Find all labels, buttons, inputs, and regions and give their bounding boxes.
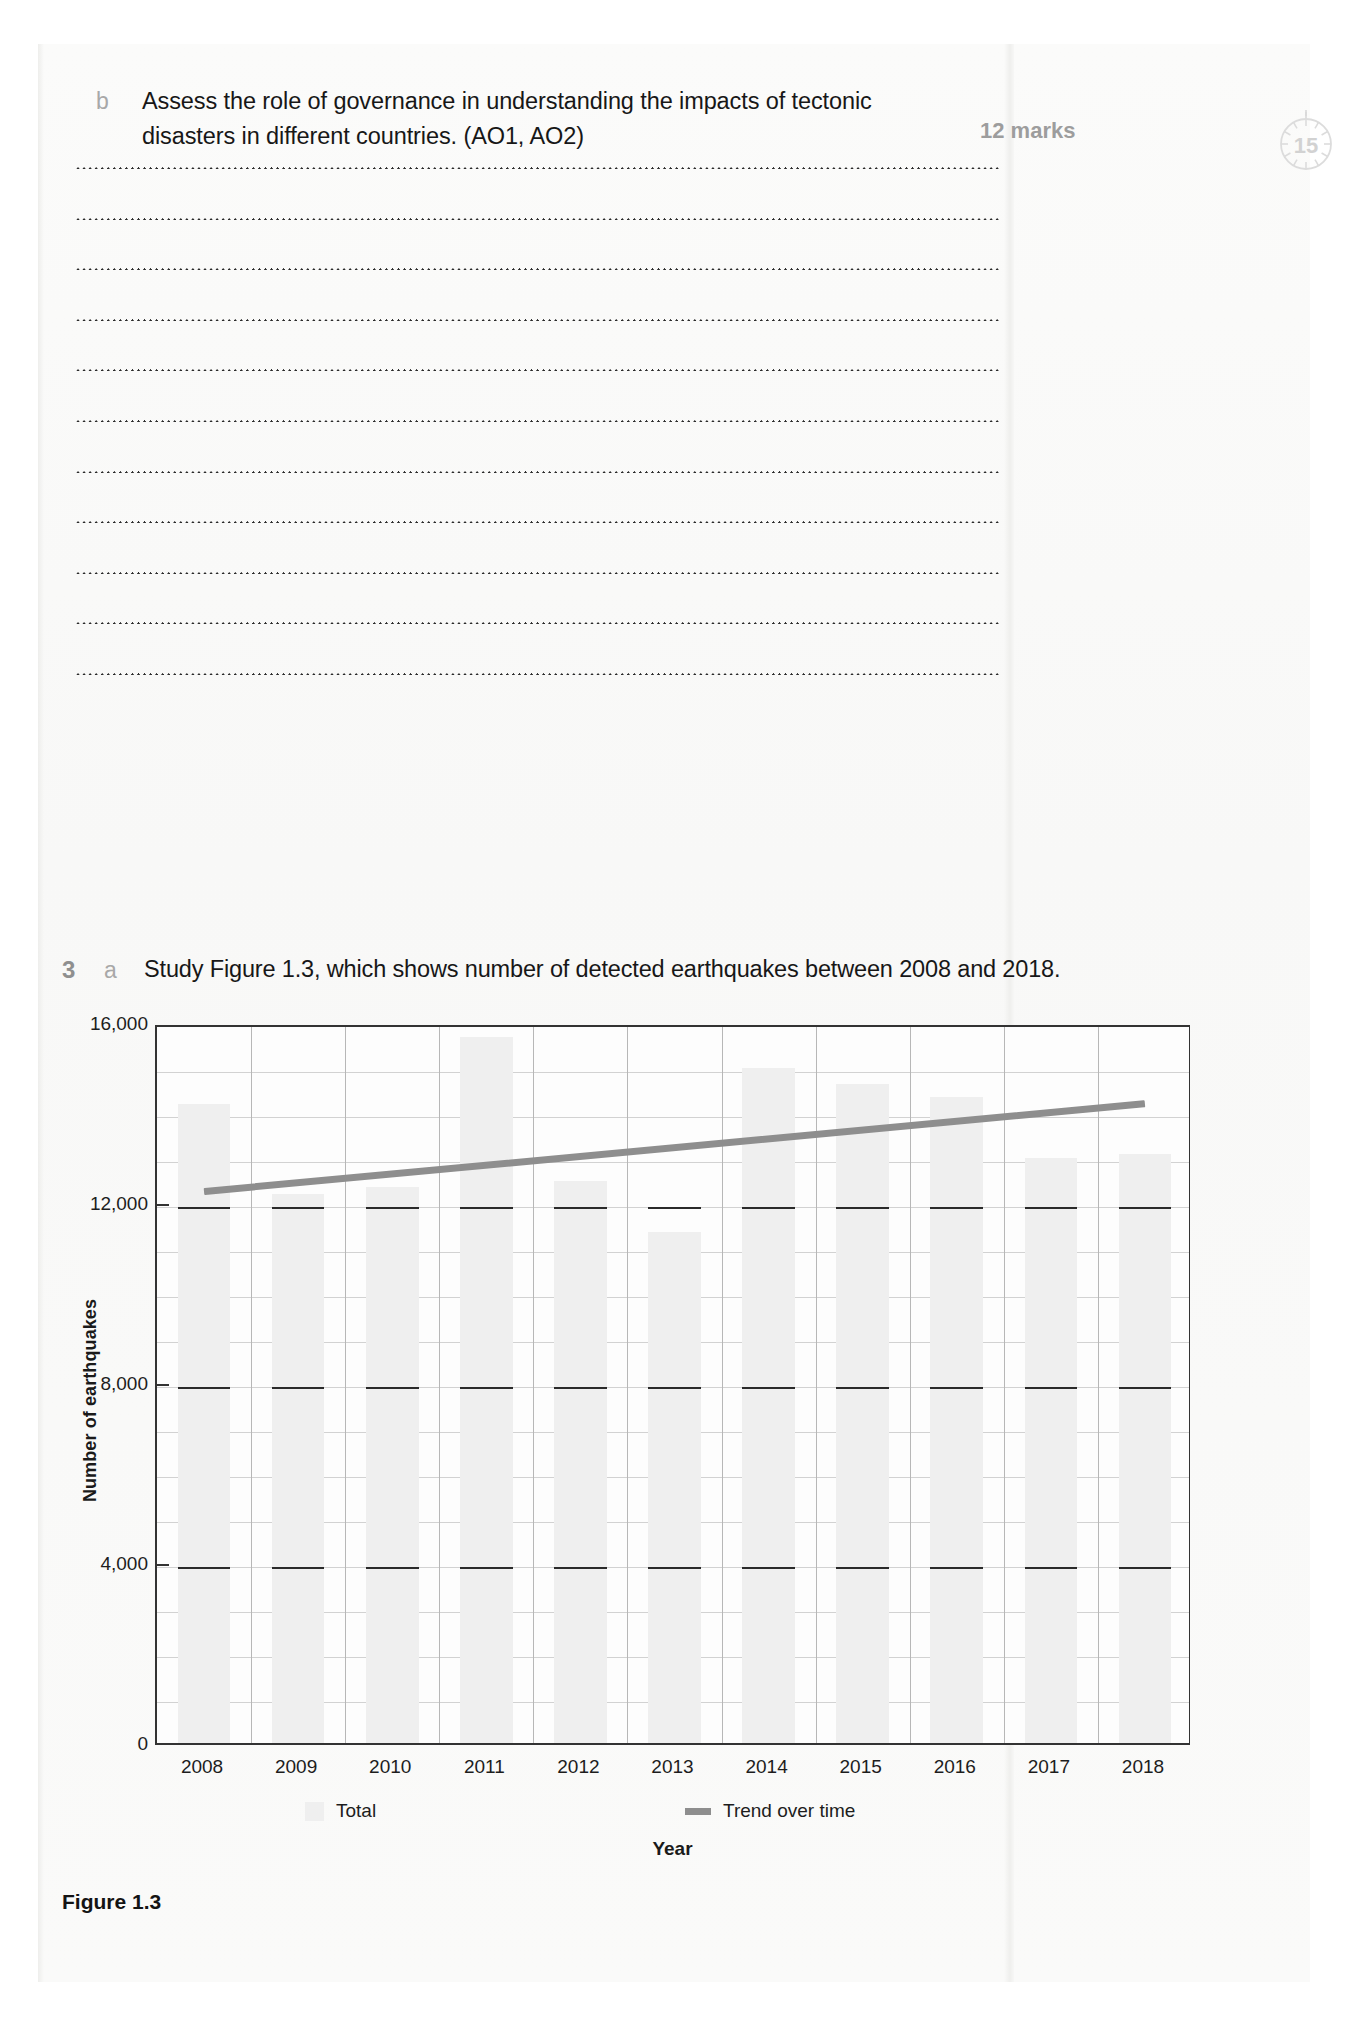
answer-line[interactable]	[75, 318, 1000, 321]
chart-gridline-vertical	[910, 1027, 911, 1743]
chart-legend-label: Total	[336, 1800, 376, 1822]
chart-tick-mark	[648, 1387, 701, 1389]
chart-bar	[366, 1187, 419, 1743]
chart-tick-mark	[366, 1387, 419, 1389]
question-b-text: Assess the role of governance in underst…	[142, 84, 932, 154]
chart-gridline-vertical	[1004, 1027, 1005, 1743]
chart-bar	[460, 1037, 513, 1744]
chart-y-tick-label: 0	[62, 1733, 148, 1755]
chart-bar	[930, 1097, 983, 1743]
answer-lines[interactable]	[75, 166, 1000, 723]
chart-legend-item: Total	[305, 1800, 376, 1822]
chart-tick-mark	[742, 1207, 795, 1209]
chart-tick-mark	[554, 1387, 607, 1389]
chart-y-axis-title: Number of earthquakes	[80, 1221, 101, 1581]
answer-line[interactable]	[75, 520, 1000, 523]
chart-bar	[648, 1232, 701, 1743]
chart-x-tick-label: 2016	[910, 1756, 1000, 1778]
chart-tick-mark	[1119, 1207, 1172, 1209]
answer-line[interactable]	[75, 217, 1000, 220]
chart-tick-mark	[178, 1387, 231, 1389]
chart-tick-mark	[272, 1207, 325, 1209]
chart-y-tick-label: 12,000	[62, 1193, 148, 1215]
figure-1-3-chart: Number of earthquakes 04,0008,00012,0001…	[62, 1000, 1242, 1880]
answer-line[interactable]	[75, 267, 1000, 270]
chart-tick-mark	[554, 1207, 607, 1209]
chart-bar	[178, 1104, 231, 1743]
chart-gridline-vertical	[251, 1027, 252, 1743]
chart-tick-mark	[930, 1567, 983, 1569]
chart-bar	[742, 1068, 795, 1743]
chart-x-tick-label: 2015	[816, 1756, 906, 1778]
chart-y-tick-label: 8,000	[62, 1373, 148, 1395]
chart-x-axis-title: Year	[155, 1838, 1190, 1860]
question-3-text: Study Figure 1.3, which shows number of …	[144, 956, 1060, 983]
chart-tick-mark	[648, 1567, 701, 1569]
paper-edge-left	[38, 44, 44, 1982]
legend-line-swatch-icon	[685, 1808, 711, 1815]
chart-tick-mark	[272, 1567, 325, 1569]
chart-tick-mark	[1025, 1567, 1078, 1569]
question-b-letter: b	[96, 84, 126, 118]
chart-y-tick-label: 4,000	[62, 1553, 148, 1575]
chart-bar	[1025, 1158, 1078, 1743]
exam-page: b Assess the role of governance in under…	[0, 0, 1355, 2027]
chart-x-tick-label: 2014	[722, 1756, 812, 1778]
chart-tick-mark	[366, 1207, 419, 1209]
chart-bar	[554, 1181, 607, 1744]
chart-gridline-vertical	[1098, 1027, 1099, 1743]
chart-plot-area	[155, 1025, 1190, 1745]
answer-line[interactable]	[75, 470, 1000, 473]
chart-gridline-horizontal	[157, 1072, 1189, 1073]
chart-x-tick-label: 2012	[533, 1756, 623, 1778]
chart-tick-mark	[178, 1207, 231, 1209]
chart-tick-mark	[460, 1207, 513, 1209]
chart-y-tick-dash	[155, 1384, 169, 1386]
answer-line[interactable]	[75, 571, 1000, 574]
chart-tick-mark	[366, 1567, 419, 1569]
chart-x-tick-label: 2018	[1098, 1756, 1188, 1778]
chart-bar	[1119, 1154, 1172, 1744]
chart-tick-mark	[742, 1387, 795, 1389]
chart-tick-mark	[930, 1207, 983, 1209]
chart-tick-mark	[1119, 1387, 1172, 1389]
chart-tick-mark	[178, 1567, 231, 1569]
chart-tick-mark	[460, 1387, 513, 1389]
question-3-number: 3	[62, 956, 75, 984]
answer-line[interactable]	[75, 419, 1000, 422]
figure-caption: Figure 1.3	[62, 1890, 161, 1914]
answer-line[interactable]	[75, 368, 1000, 371]
chart-y-tick-dash	[155, 1204, 169, 1206]
answer-line[interactable]	[75, 166, 1000, 169]
legend-bar-swatch-icon	[305, 1802, 324, 1821]
chart-gridline-vertical	[533, 1027, 534, 1743]
chart-y-tick-dash	[155, 1564, 169, 1566]
chart-gridline-vertical	[627, 1027, 628, 1743]
chart-tick-mark	[742, 1567, 795, 1569]
chart-legend-item: Trend over time	[685, 1800, 855, 1822]
chart-tick-mark	[836, 1207, 889, 1209]
chart-x-tick-label: 2008	[157, 1756, 247, 1778]
timer-badge: 15	[1275, 110, 1337, 172]
chart-x-tick-label: 2017	[1004, 1756, 1094, 1778]
chart-tick-mark	[1025, 1207, 1078, 1209]
answer-line[interactable]	[75, 672, 1000, 675]
chart-bar	[272, 1194, 325, 1743]
chart-tick-mark	[836, 1387, 889, 1389]
answer-line[interactable]	[75, 621, 1000, 624]
chart-x-tick-label: 2013	[628, 1756, 718, 1778]
chart-tick-mark	[930, 1387, 983, 1389]
chart-tick-mark	[460, 1567, 513, 1569]
chart-gridline-vertical	[439, 1027, 440, 1743]
timer-value: 15	[1294, 133, 1318, 158]
question-3-letter: a	[104, 957, 117, 984]
chart-tick-mark	[1025, 1387, 1078, 1389]
chart-x-tick-label: 2010	[345, 1756, 435, 1778]
chart-gridline-vertical	[345, 1027, 346, 1743]
chart-legend-label: Trend over time	[723, 1800, 855, 1822]
question-b-marks: 12 marks	[980, 118, 1075, 144]
chart-bar	[836, 1084, 889, 1743]
chart-y-tick-label: 16,000	[62, 1013, 148, 1035]
chart-tick-mark	[272, 1387, 325, 1389]
chart-tick-mark	[1119, 1567, 1172, 1569]
